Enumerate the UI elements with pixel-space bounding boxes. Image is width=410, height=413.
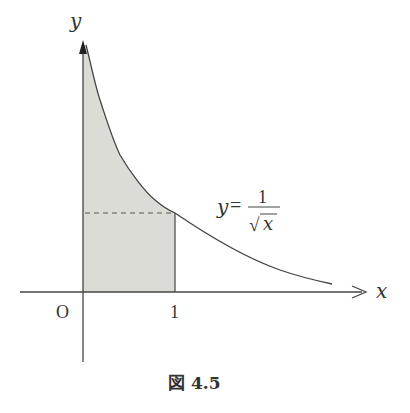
origin-label: O	[56, 302, 69, 322]
y-axis-label: y	[69, 9, 82, 33]
x-axis-label: x	[376, 279, 387, 303]
curve-label-lhs: y	[216, 195, 229, 219]
curve-label-denominator: x	[263, 213, 273, 234]
figure-canvas: y x O 1 y = 1 √ x 図 4.5	[0, 0, 410, 413]
figure-caption: 図 4.5	[168, 373, 221, 393]
radical-sign-icon: √	[249, 214, 260, 235]
curve-label-equals: =	[230, 194, 241, 216]
x-tick-label-1: 1	[170, 302, 179, 322]
curve-label: y = 1 √ x	[216, 187, 280, 235]
curve-label-numerator: 1	[258, 187, 267, 207]
